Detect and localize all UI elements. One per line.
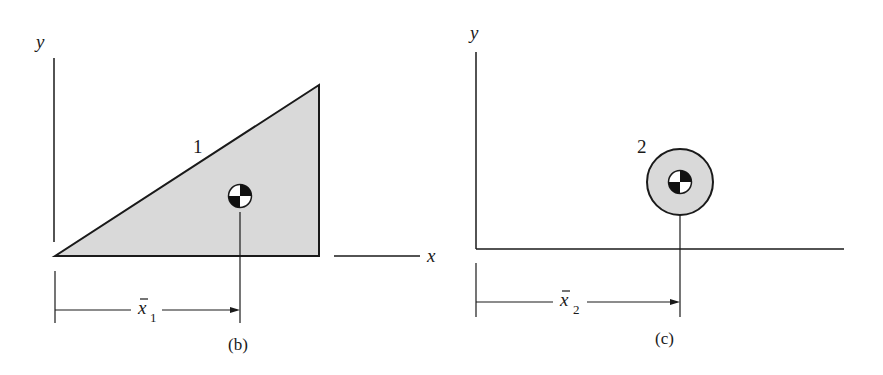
figure-b: y 1 x x 1 (b) <box>34 31 436 354</box>
dimension-arrow-icon-1 <box>230 307 240 313</box>
dimension-label-1: x <box>137 297 147 318</box>
dimension-label-2: x <box>559 289 569 310</box>
y-axis-label-c: y <box>468 22 479 43</box>
x-axis-label-b: x <box>426 245 436 266</box>
caption-c: (c) <box>655 329 674 348</box>
figure-c: y 2 x 2 (c) <box>468 22 844 348</box>
shape-label-2: 2 <box>637 136 647 157</box>
triangle-shape-1 <box>55 85 319 256</box>
caption-b: (b) <box>228 335 248 354</box>
centroid-icon-1 <box>229 185 252 208</box>
dimension-subscript-1: 1 <box>150 310 157 325</box>
dimension-subscript-2: 2 <box>573 302 580 317</box>
shape-label-1: 1 <box>193 136 203 157</box>
centroid-icon-2 <box>669 171 692 194</box>
y-axis-label-b: y <box>34 31 45 52</box>
dimension-arrow-icon-2 <box>670 299 680 305</box>
